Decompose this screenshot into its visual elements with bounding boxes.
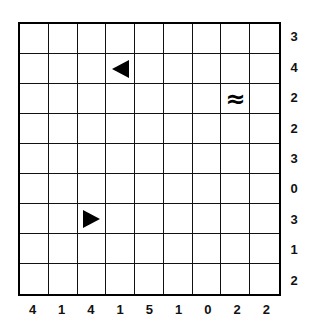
grid-cell-r6-c4[interactable] — [135, 204, 164, 234]
grid-cell-r8-c3[interactable] — [106, 264, 135, 294]
row-clue-2: 2 — [286, 90, 302, 105]
grid-cell-r3-c2[interactable] — [78, 114, 107, 144]
grid-cell-r4-c4[interactable] — [135, 144, 164, 174]
grid-cell-r7-c1[interactable] — [49, 234, 78, 264]
grid-cell-r5-c3[interactable] — [106, 174, 135, 204]
grid-cell-r7-c4[interactable] — [135, 234, 164, 264]
grid-cell-r6-c8[interactable] — [250, 204, 279, 234]
grid-cell-r3-c0[interactable] — [20, 114, 49, 144]
grid-cell-r3-c8[interactable] — [250, 114, 279, 144]
grid-cell-r3-c7[interactable] — [221, 114, 250, 144]
grid-cell-r0-c8[interactable] — [250, 24, 279, 54]
column-clue-4: 5 — [135, 302, 164, 317]
column-clue-0: 4 — [18, 302, 47, 317]
grid-cell-r5-c1[interactable] — [49, 174, 78, 204]
grid-cell-r2-c1[interactable] — [49, 84, 78, 114]
grid-cell-r5-c0[interactable] — [20, 174, 49, 204]
grid-cell-r1-c7[interactable] — [221, 54, 250, 84]
row-clue-8: 2 — [286, 273, 302, 288]
grid-cell-r4-c1[interactable] — [49, 144, 78, 174]
grid-cell-r1-c3[interactable] — [106, 54, 135, 84]
grid-cell-r8-c7[interactable] — [221, 264, 250, 294]
grid-cell-r5-c6[interactable] — [193, 174, 222, 204]
grid-cell-r4-c0[interactable] — [20, 144, 49, 174]
puzzle-grid: ≈ — [18, 22, 281, 296]
grid-cell-r8-c1[interactable] — [49, 264, 78, 294]
grid-cell-r6-c5[interactable] — [164, 204, 193, 234]
grid-cell-r0-c0[interactable] — [20, 24, 49, 54]
row-clue-6: 3 — [286, 212, 302, 227]
column-clue-7: 2 — [223, 302, 252, 317]
grid-cell-r1-c8[interactable] — [250, 54, 279, 84]
grid-cell-r0-c5[interactable] — [164, 24, 193, 54]
grid-cell-r1-c6[interactable] — [193, 54, 222, 84]
grid-cell-r7-c6[interactable] — [193, 234, 222, 264]
grid-cell-r4-c2[interactable] — [78, 144, 107, 174]
grid-cell-r1-c0[interactable] — [20, 54, 49, 84]
grid-cell-r8-c4[interactable] — [135, 264, 164, 294]
grid-cell-r1-c4[interactable] — [135, 54, 164, 84]
grid-cell-r6-c6[interactable] — [193, 204, 222, 234]
grid-cell-r4-c6[interactable] — [193, 144, 222, 174]
triangle-left-icon — [112, 60, 129, 78]
grid-cell-r3-c6[interactable] — [193, 114, 222, 144]
grid-cell-r2-c3[interactable] — [106, 84, 135, 114]
grid-cell-r6-c1[interactable] — [49, 204, 78, 234]
grid-cell-r4-c8[interactable] — [250, 144, 279, 174]
grid-cell-r0-c7[interactable] — [221, 24, 250, 54]
grid-cell-r0-c3[interactable] — [106, 24, 135, 54]
grid-cell-r4-c7[interactable] — [221, 144, 250, 174]
grid-cell-r8-c0[interactable] — [20, 264, 49, 294]
grid-cell-r6-c2[interactable] — [78, 204, 107, 234]
column-clue-1: 1 — [47, 302, 76, 317]
grid-cell-r2-c0[interactable] — [20, 84, 49, 114]
grid-cell-r1-c2[interactable] — [78, 54, 107, 84]
grid-cell-r3-c5[interactable] — [164, 114, 193, 144]
grid-cell-r4-c3[interactable] — [106, 144, 135, 174]
grid-cell-r0-c2[interactable] — [78, 24, 107, 54]
grid-cell-r7-c8[interactable] — [250, 234, 279, 264]
grid-cell-r8-c8[interactable] — [250, 264, 279, 294]
grid-cell-r5-c8[interactable] — [250, 174, 279, 204]
grid-cell-r0-c6[interactable] — [193, 24, 222, 54]
grid-cell-r2-c4[interactable] — [135, 84, 164, 114]
grid-cell-r6-c7[interactable] — [221, 204, 250, 234]
grid-cell-r7-c5[interactable] — [164, 234, 193, 264]
row-clue-4: 3 — [286, 151, 302, 166]
column-clue-8: 2 — [252, 302, 281, 317]
grid-cell-r2-c6[interactable] — [193, 84, 222, 114]
row-clue-7: 1 — [286, 242, 302, 257]
grid-cell-r4-c5[interactable] — [164, 144, 193, 174]
grid-cell-r7-c0[interactable] — [20, 234, 49, 264]
grid-cell-r2-c2[interactable] — [78, 84, 107, 114]
grid-cell-r8-c2[interactable] — [78, 264, 107, 294]
grid-cell-r7-c2[interactable] — [78, 234, 107, 264]
water-icon: ≈ — [225, 87, 245, 111]
grid-cell-r0-c4[interactable] — [135, 24, 164, 54]
row-clue-5: 0 — [286, 181, 302, 196]
grid-cell-r5-c5[interactable] — [164, 174, 193, 204]
grid-cell-r8-c5[interactable] — [164, 264, 193, 294]
grid-cell-r5-c7[interactable] — [221, 174, 250, 204]
row-clue-3: 2 — [286, 121, 302, 136]
grid-cell-r3-c3[interactable] — [106, 114, 135, 144]
grid-cell-r1-c1[interactable] — [49, 54, 78, 84]
column-clue-2: 4 — [76, 302, 105, 317]
grid-cell-r6-c3[interactable] — [106, 204, 135, 234]
column-clue-3: 1 — [106, 302, 135, 317]
grid-cell-r3-c1[interactable] — [49, 114, 78, 144]
grid-cell-r1-c5[interactable] — [164, 54, 193, 84]
row-clue-1: 4 — [286, 60, 302, 75]
grid-cell-r8-c6[interactable] — [193, 264, 222, 294]
grid-cell-r3-c4[interactable] — [135, 114, 164, 144]
grid-cell-r5-c4[interactable] — [135, 174, 164, 204]
grid-cell-r5-c2[interactable] — [78, 174, 107, 204]
grid-cell-r7-c7[interactable] — [221, 234, 250, 264]
grid-cell-r2-c5[interactable] — [164, 84, 193, 114]
grid-cell-r0-c1[interactable] — [49, 24, 78, 54]
grid-cell-r6-c0[interactable] — [20, 204, 49, 234]
grid-cell-r2-c8[interactable] — [250, 84, 279, 114]
triangle-right-icon — [83, 210, 100, 228]
grid-cell-r2-c7[interactable]: ≈ — [221, 84, 250, 114]
grid-cell-r7-c3[interactable] — [106, 234, 135, 264]
